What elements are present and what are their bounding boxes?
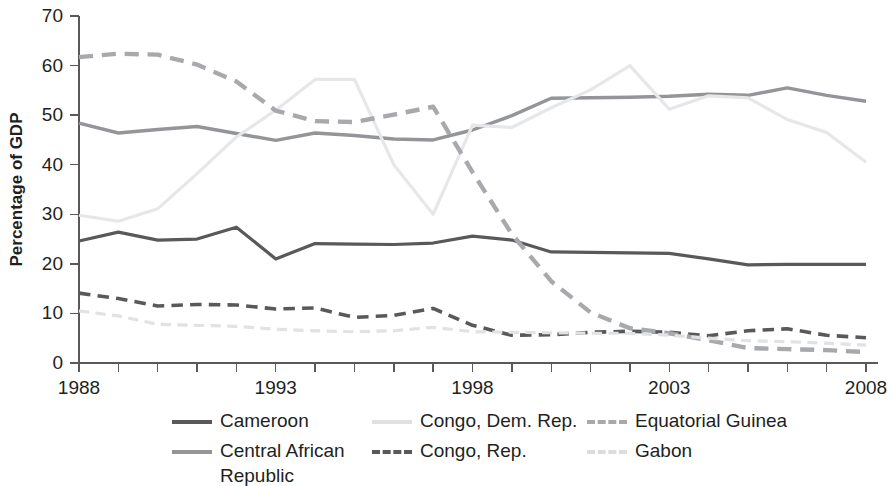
series-line-congo-rep <box>79 293 866 338</box>
series-line-cameroon <box>79 227 866 265</box>
legend-item-central-african-republic[interactable]: Central African Republic <box>172 438 372 468</box>
legend-label-cameroon: Cameroon <box>220 408 309 434</box>
plot-area: 01020304050607019881993199820032008Perce… <box>0 0 891 400</box>
chart-figure: 01020304050607019881993199820032008Perce… <box>0 0 891 486</box>
y-tick-label: 40 <box>42 154 63 175</box>
legend-swatch-central-african-republic-icon <box>172 438 212 464</box>
y-axis-title: Percentage of GDP <box>7 113 26 267</box>
legend-item-equatorial-guinea[interactable]: Equatorial Guinea <box>587 408 847 438</box>
y-tick-label: 10 <box>42 302 63 323</box>
legend-label-equatorial-guinea: Equatorial Guinea <box>635 408 787 434</box>
legend-item-cameroon[interactable]: Cameroon <box>172 408 372 438</box>
y-tick-label: 70 <box>42 5 63 26</box>
y-tick-label: 30 <box>42 203 63 224</box>
series-line-central-african-republic <box>79 88 866 141</box>
x-tick-label: 2003 <box>648 377 690 398</box>
x-tick-label: 1993 <box>255 377 297 398</box>
x-tick-label: 1998 <box>451 377 493 398</box>
legend-swatch-congo-dem-rep-icon <box>372 408 412 434</box>
legend-label-congo-rep: Congo, Rep. <box>420 438 527 464</box>
chart-legend: CameroonCongo, Dem. Rep.Equatorial Guine… <box>0 404 891 486</box>
y-tick-label: 50 <box>42 104 63 125</box>
y-tick-label: 20 <box>42 253 63 274</box>
legend-item-congo-rep[interactable]: Congo, Rep. <box>372 438 587 468</box>
y-tick-label: 0 <box>52 352 63 373</box>
x-tick-label: 1988 <box>58 377 100 398</box>
y-tick-label: 60 <box>42 55 63 76</box>
legend-item-gabon[interactable]: Gabon <box>587 438 847 468</box>
series-line-congo-dem-rep <box>79 66 866 222</box>
legend-label-congo-dem-rep: Congo, Dem. Rep. <box>420 408 577 434</box>
legend-swatch-congo-rep-icon <box>372 438 412 464</box>
legend-label-gabon: Gabon <box>635 438 692 464</box>
legend-item-congo-dem-rep[interactable]: Congo, Dem. Rep. <box>372 408 587 438</box>
legend-label-central-african-republic: Central African Republic <box>220 438 372 486</box>
legend-swatch-cameroon-icon <box>172 408 212 434</box>
legend-swatch-equatorial-guinea-icon <box>587 408 627 434</box>
legend-swatch-gabon-icon <box>587 438 627 464</box>
line-chart: 01020304050607019881993199820032008Perce… <box>0 0 891 400</box>
x-tick-label: 2008 <box>845 377 887 398</box>
series-line-gabon <box>79 311 866 345</box>
